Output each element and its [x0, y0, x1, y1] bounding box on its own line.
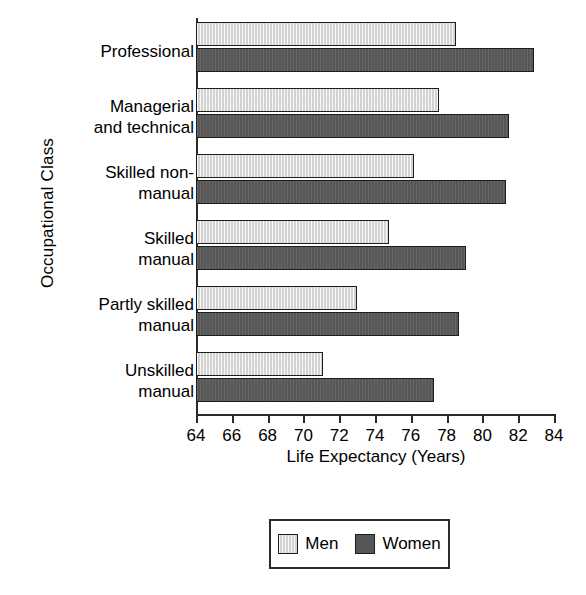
x-axis-tick-label: 66 [212, 426, 252, 446]
chart-legend: Men Women [269, 519, 450, 569]
x-axis-tick-label: 84 [534, 426, 574, 446]
x-axis-tick-label: 72 [319, 426, 359, 446]
bar-group-row: Skilled non- manual [196, 150, 556, 216]
bar-women [196, 378, 434, 402]
x-axis-tick-label: 80 [462, 426, 502, 446]
bar-men [196, 88, 439, 112]
x-axis-tick-label: 78 [427, 426, 467, 446]
x-axis-tick-label: 64 [176, 426, 216, 446]
legend-swatch-men-icon [278, 534, 298, 554]
x-axis-tick-label: 74 [355, 426, 395, 446]
x-axis-tick-label: 70 [283, 426, 323, 446]
bar-women [196, 180, 506, 204]
bar-men [196, 286, 357, 310]
x-axis-title: Life Expectancy (Years) [196, 447, 556, 467]
category-label: Partly skilled manual [0, 294, 194, 336]
x-axis-tick-label: 76 [391, 426, 431, 446]
bar-men [196, 220, 389, 244]
bar-women [196, 312, 459, 336]
bar-men [196, 352, 323, 376]
legend-entry-men: Men [278, 534, 338, 554]
category-label: Managerial and technical [0, 96, 194, 138]
category-label: Professional [0, 41, 194, 62]
bar-group-row: Unskilled manual [196, 348, 556, 414]
bar-group-row: Partly skilled manual [196, 282, 556, 348]
bar-women [196, 48, 534, 72]
bar-group-row: Skilled manual [196, 216, 556, 282]
x-axis-tick [447, 414, 449, 423]
x-axis-tick [554, 414, 556, 423]
bar-chart-figure: Occupational Class ProfessionalManageria… [0, 0, 586, 595]
x-axis-tick-label: 82 [498, 426, 538, 446]
caption-fragment [150, 582, 550, 595]
bar-group-row: Professional [196, 18, 556, 84]
x-axis-tick [375, 414, 377, 423]
x-axis-tick [482, 414, 484, 423]
category-label: Skilled non- manual [0, 162, 194, 204]
legend-label-women: Women [382, 534, 440, 554]
x-axis-tick [411, 414, 413, 423]
x-axis-tick-label: 68 [248, 426, 288, 446]
category-label: Unskilled manual [0, 360, 194, 402]
x-axis-tick [303, 414, 305, 423]
x-axis-tick [339, 414, 341, 423]
bar-men [196, 154, 414, 178]
bar-men [196, 22, 456, 46]
bar-group-row: Managerial and technical [196, 84, 556, 150]
x-axis-tick [232, 414, 234, 423]
legend-label-men: Men [305, 534, 338, 554]
legend-swatch-women-icon [355, 534, 375, 554]
legend-entry-women: Women [355, 534, 440, 554]
x-axis-tick [196, 414, 198, 423]
x-axis-tick [268, 414, 270, 423]
bar-women [196, 114, 509, 138]
category-label: Skilled manual [0, 228, 194, 270]
x-axis-tick [518, 414, 520, 423]
plot-area: ProfessionalManagerial and technicalSkil… [196, 18, 556, 414]
bar-women [196, 246, 466, 270]
